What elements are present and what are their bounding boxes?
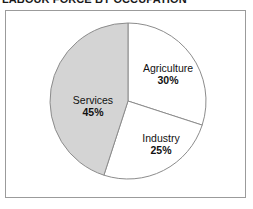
pie-label-agriculture: Agriculture 30% xyxy=(132,62,204,87)
pie-label-services: Services 45% xyxy=(57,94,129,119)
chart-title-clip: LABOUR FORCE BY OCCUPATION xyxy=(0,0,253,7)
pie-label-agriculture-name: Agriculture xyxy=(132,62,204,74)
pie-label-services-value: 45% xyxy=(57,106,129,118)
pie-label-industry-name: Industry xyxy=(127,132,195,144)
pie-label-agriculture-value: 30% xyxy=(132,74,204,86)
pie-label-industry-value: 25% xyxy=(127,144,195,156)
page-title: LABOUR FORCE BY OCCUPATION xyxy=(2,0,187,5)
pie-label-services-name: Services xyxy=(57,94,129,106)
pie-label-industry: Industry 25% xyxy=(127,132,195,157)
